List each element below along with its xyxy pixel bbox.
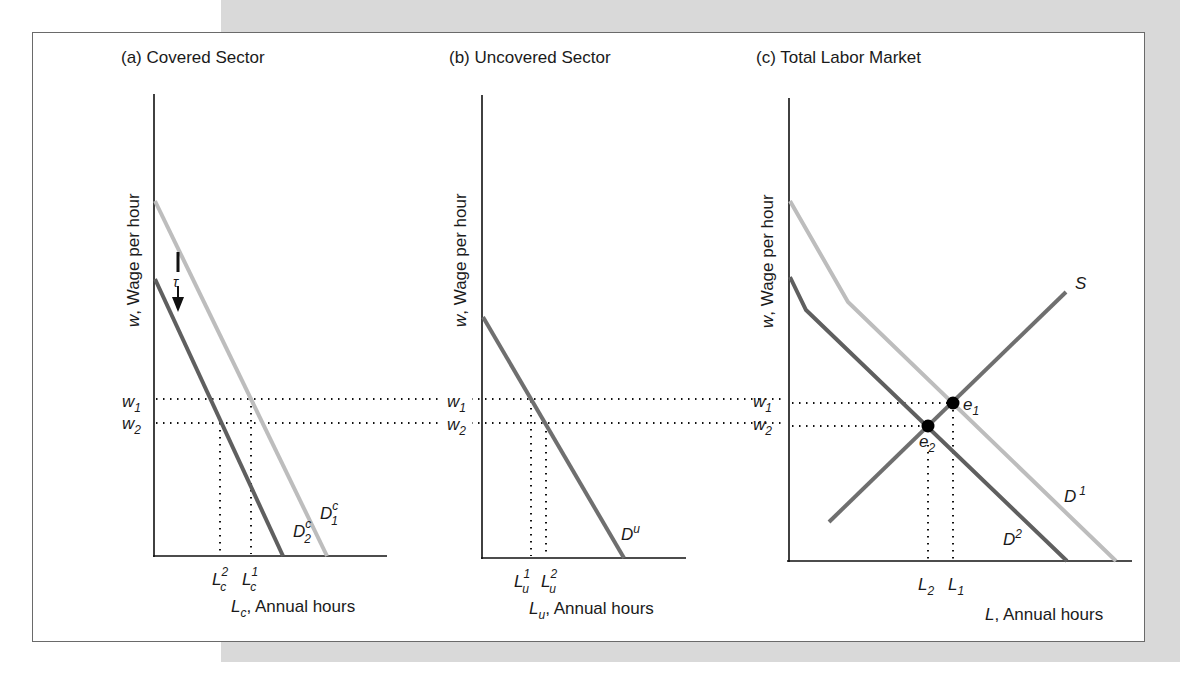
D1-label: D1 <box>1064 484 1086 506</box>
panel-b-x-label: Lu, Annual hours <box>529 599 654 622</box>
panel-covered-sector: (a) Covered Sector w, Wage per hour τ w1… <box>121 48 785 620</box>
panel-c-w2-label: w2 <box>753 415 772 438</box>
panel-c-title: (c) Total Labor Market <box>756 48 921 67</box>
panel-a-y-label: w, Wage per hour <box>124 193 143 327</box>
panel-c-x-label: L, Annual hours <box>985 605 1103 624</box>
D2-label: D2 <box>1003 527 1022 549</box>
L2-label: L2 <box>918 575 934 598</box>
demand-curve-Du <box>483 317 624 558</box>
equilibrium-point-e1 <box>947 397 960 410</box>
S-label: S <box>1075 274 1087 293</box>
panel-a-w1-label: w1 <box>122 392 141 415</box>
supply-curve-S <box>829 292 1066 522</box>
equilibrium-point-e2 <box>922 420 935 433</box>
tau-label: τ <box>173 274 179 290</box>
panel-uncovered-sector: (b) Uncovered Sector w, Wage per hour w1… <box>442 48 686 622</box>
panel-b-Lu1-label: L1u <box>514 567 530 596</box>
panel-a-Lc1-label: L1c <box>242 565 258 594</box>
demand-curve-D1c <box>155 201 327 556</box>
labor-market-figure: (a) Covered Sector w, Wage per hour τ w1… <box>0 0 1183 677</box>
panel-total-labor-market: (c) Total Labor Market w, Wage per hour … <box>753 48 1132 624</box>
Du-label: Du <box>621 522 640 544</box>
D1c-label: Dc1 <box>320 499 338 528</box>
e2-label: e2 <box>919 432 935 455</box>
panel-a-Lc2-label: L2c <box>212 565 228 594</box>
panel-a-x-label: Lc, Annual hours <box>231 597 355 620</box>
panel-c-w1-label: w1 <box>753 392 772 415</box>
panel-c-y-label: w, Wage per hour <box>758 194 777 328</box>
panel-b-title: (b) Uncovered Sector <box>449 48 611 67</box>
panel-b-y-label: w, Wage per hour <box>451 193 470 327</box>
D2c-label: Dc2 <box>293 517 311 546</box>
panel-a-title: (a) Covered Sector <box>121 48 265 67</box>
L1-label: L1 <box>948 575 964 598</box>
panel-a-w2-label: w2 <box>122 414 141 437</box>
panel-b-Lu2-label: L2u <box>541 567 557 596</box>
demand-curve-D1 <box>790 201 1116 561</box>
